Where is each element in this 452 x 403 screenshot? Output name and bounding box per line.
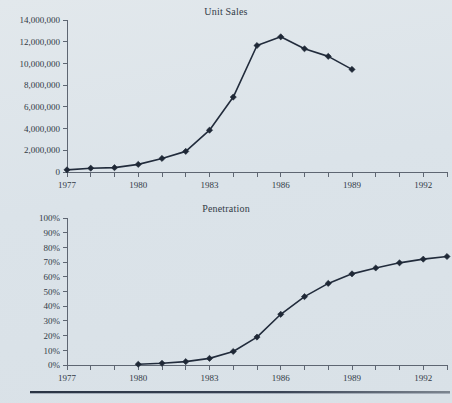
x-axis-tick-label: 1980 [129,373,148,383]
chart-unit-sales: Unit Sales 02,000,0004,000,0006,000,0008… [0,0,452,198]
series-line [67,37,352,170]
y-axis-tick-label: 40% [44,301,61,311]
y-axis-tick-label: 6,000,000 [24,102,61,112]
data-point-marker [301,46,307,52]
data-point-marker [373,265,379,271]
data-point-marker [444,253,450,259]
x-axis-tick-label: 1989 [343,180,362,190]
series-line [138,257,447,365]
y-axis-tick-label: 60% [44,272,61,282]
y-axis-tick-label: 100% [39,213,61,223]
figure-canvas: Unit Sales 02,000,0004,000,0006,000,0008… [0,0,452,403]
x-axis-tick-label: 1977 [58,180,77,190]
y-axis-tick-label: 2,000,000 [24,145,61,155]
y-axis-tick-label: 8,000,000 [24,80,61,90]
y-axis-tick-label: 4,000,000 [24,124,61,134]
y-axis-tick-label: 30% [44,316,61,326]
data-point-marker [111,165,117,171]
data-point-marker [349,66,355,72]
y-axis-tick-label: 70% [44,257,61,267]
y-axis-tick-label: 10,000,000 [20,59,61,69]
data-point-marker [325,280,331,286]
x-axis-tick-label: 1986 [272,373,291,383]
data-point-marker [420,256,426,262]
data-point-marker [278,34,284,40]
x-axis-tick-label: 1986 [272,180,291,190]
chart-penetration: Penetration 0%10%20%30%40%50%60%70%80%90… [0,198,452,386]
data-point-marker [206,355,212,361]
plot-area-unit-sales: 02,000,0004,000,0006,000,0008,000,00010,… [0,0,452,198]
x-axis-tick-label: 1983 [201,373,220,383]
data-point-marker [325,53,331,59]
x-axis-tick-label: 1980 [129,180,148,190]
data-point-marker [135,361,141,367]
data-point-marker [254,42,260,48]
y-axis-tick-label: 0% [48,360,61,370]
y-axis-tick-label: 12,000,000 [20,37,61,47]
y-axis-tick-label: 10% [44,346,61,356]
y-axis-tick-label: 14,000,000 [20,15,61,25]
x-axis-tick-label: 1983 [201,180,220,190]
x-axis-tick-label: 1989 [343,373,362,383]
data-point-marker [183,359,189,365]
y-axis-tick-label: 80% [44,243,61,253]
data-point-marker [88,165,94,171]
data-point-marker [349,271,355,277]
x-axis-tick-label: 1977 [58,373,77,383]
bottom-divider-shadow [30,393,450,394]
y-axis-tick-label: 0 [56,167,61,177]
y-axis-tick-label: 50% [44,287,61,297]
y-axis-tick-label: 20% [44,331,61,341]
data-point-marker [396,260,402,266]
x-axis-tick-label: 1992 [414,373,432,383]
y-axis-tick-label: 90% [44,228,61,238]
data-point-marker [135,161,141,167]
data-point-marker [159,155,165,161]
x-axis-tick-label: 1992 [414,180,432,190]
plot-area-penetration: 0%10%20%30%40%50%60%70%80%90%100%1977198… [0,198,452,386]
